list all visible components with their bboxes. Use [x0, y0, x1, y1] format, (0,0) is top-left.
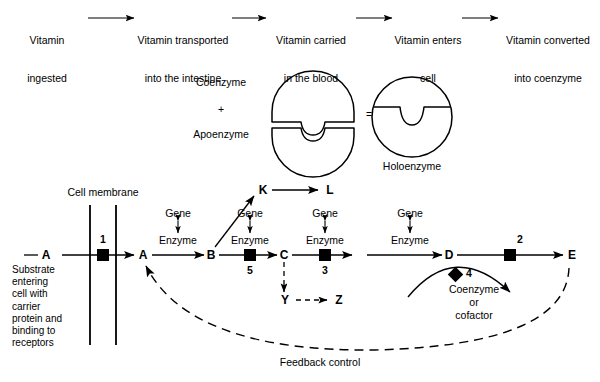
block-marker-3: [319, 249, 331, 261]
block-number-1: 1: [100, 233, 106, 246]
top-flow-step-1: Vitamin ingested: [27, 8, 67, 110]
node-K: K: [259, 183, 268, 198]
block-number-4: 4: [466, 267, 472, 280]
node-L: L: [326, 183, 333, 198]
node-Z: Z: [335, 293, 342, 308]
equals-sign: =: [366, 108, 372, 121]
step-3-line-1: Vitamin carried: [276, 34, 346, 47]
block-marker-4: [448, 267, 464, 283]
gene-label-2: Gene: [237, 207, 263, 220]
enzyme-label-1: Enzyme: [159, 234, 197, 247]
node-C: C: [280, 248, 289, 263]
block-marker-1: [97, 249, 109, 261]
node-B: B: [207, 248, 216, 263]
gene-label-1: Gene: [165, 207, 191, 220]
step-3-line-2: in the blood: [276, 72, 346, 85]
node-A-outside: A: [42, 248, 51, 263]
figure-canvas: Vitamin ingested Vitamin transported int…: [0, 0, 600, 382]
plus-sign: +: [218, 103, 224, 116]
branch-y-z: [284, 262, 327, 300]
step-5-line-2: into coenzyme: [506, 72, 590, 85]
coenzyme-label: Coenzyme: [196, 76, 246, 89]
step-4-line-2: cell: [395, 72, 462, 85]
holoenzyme-label: Holoenzyme: [383, 160, 441, 173]
node-A-inside: A: [139, 248, 148, 263]
cell-membrane-lines: [90, 205, 116, 345]
gene-label-4: Gene: [397, 207, 423, 220]
cofactor-label: Coenzyme or cofactor: [432, 283, 516, 321]
block-marker-5: [244, 249, 256, 261]
block-number-3: 3: [322, 264, 328, 277]
top-flow-step-4: Vitamin enters cell: [395, 8, 462, 110]
enzyme-label-3: Enzyme: [306, 234, 344, 247]
substrate-caption: Substrate entering cell with carrier pro…: [12, 264, 90, 349]
enzyme-label-4: Enzyme: [391, 234, 429, 247]
feedback-control-label: Feedback control: [280, 356, 361, 369]
gene-enzyme-connectors: [178, 221, 410, 233]
top-flow-step-3: Vitamin carried in the blood: [276, 8, 346, 110]
enzyme-label-2: Enzyme: [231, 234, 269, 247]
step-4-line-1: Vitamin enters: [395, 34, 462, 47]
block-number-2: 2: [517, 233, 523, 246]
apoenzyme-label: Apoenzyme: [193, 128, 248, 141]
gene-label-3: Gene: [312, 207, 338, 220]
step-5-line-1: Vitamin converted: [506, 34, 590, 47]
node-Y: Y: [281, 293, 289, 308]
block-number-5: 5: [247, 264, 253, 277]
node-D: D: [445, 248, 454, 263]
step-1-line-1: Vitamin: [27, 34, 67, 47]
block-marker-2: [504, 249, 516, 261]
top-flow-step-2: Vitamin transported into the intestine: [138, 8, 229, 110]
node-E: E: [568, 248, 576, 263]
top-flow-step-5: Vitamin converted into coenzyme: [506, 8, 590, 110]
cell-membrane-label: Cell membrane: [67, 186, 138, 199]
step-2-line-1: Vitamin transported: [138, 34, 229, 47]
step-1-line-2: ingested: [27, 72, 67, 85]
